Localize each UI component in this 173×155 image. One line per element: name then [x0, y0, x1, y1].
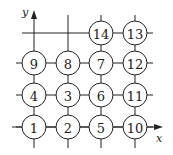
grid-node: 9: [22, 51, 46, 75]
grid-node: 11: [123, 83, 147, 107]
grid-node: 5: [89, 115, 113, 139]
node-label: 7: [97, 57, 105, 72]
grid-node: 12: [123, 51, 147, 75]
grid-node: 8: [56, 51, 80, 75]
node-label: 8: [64, 57, 72, 72]
grid-node: 10: [123, 115, 147, 139]
grid-node: 7: [89, 51, 113, 75]
grid-numbering-diagram: y x 1251043611987121413: [0, 0, 173, 155]
node-label: 5: [97, 121, 105, 136]
node-label: 6: [97, 89, 105, 104]
node-label: 12: [127, 57, 144, 72]
node-label: 4: [30, 89, 38, 104]
node-label: 11: [127, 89, 144, 104]
node-label: 14: [93, 27, 110, 42]
node-label: 2: [64, 121, 72, 136]
node-label: 13: [127, 27, 144, 42]
grid-node: 2: [56, 115, 80, 139]
node-label: 3: [64, 89, 72, 104]
grid-node: 14: [89, 21, 113, 45]
grid-node: 3: [56, 83, 80, 107]
node-label: 10: [127, 121, 144, 136]
nodes: 1251043611987121413: [22, 21, 147, 139]
grid-node: 13: [123, 21, 147, 45]
y-axis-label: y: [21, 6, 29, 19]
grid-node: 6: [89, 83, 113, 107]
grid-node: 1: [22, 115, 46, 139]
y-axis-arrow-icon: [31, 10, 37, 19]
x-axis-label: x: [156, 132, 163, 145]
node-label: 9: [30, 57, 38, 72]
x-axis-arrow-icon: [154, 124, 163, 130]
node-label: 1: [30, 121, 38, 136]
grid-node: 4: [22, 83, 46, 107]
